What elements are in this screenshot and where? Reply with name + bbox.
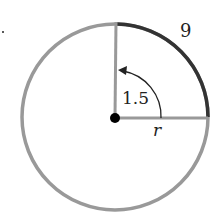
- vertical-radius: [115, 22, 116, 117]
- stray-dot: [2, 31, 4, 33]
- arc-length-label: 9: [180, 20, 191, 41]
- angle-arrowhead-icon: [118, 66, 127, 75]
- center-point: [110, 113, 120, 123]
- radius-label: r: [153, 120, 161, 140]
- angle-label: 1.5: [122, 88, 149, 108]
